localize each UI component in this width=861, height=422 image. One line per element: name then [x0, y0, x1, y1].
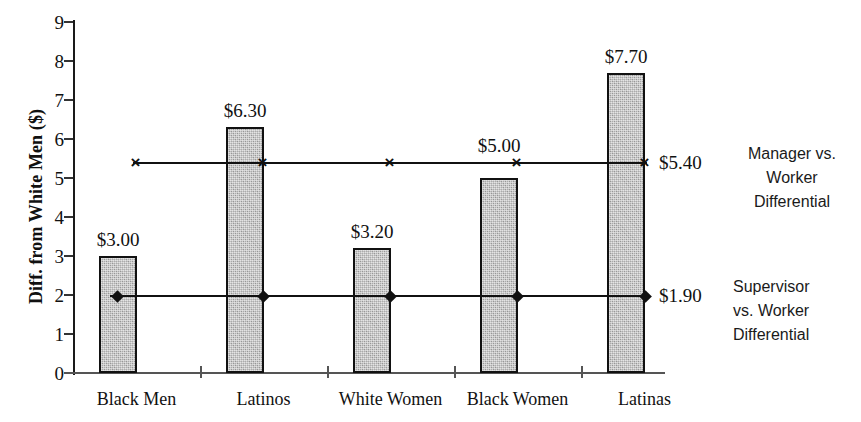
bar-chart: Diff. from White Men ($) 0 1 2 3 4 5 6 7…	[0, 0, 861, 422]
bar-white-women[interactable]	[353, 248, 391, 373]
y-tick-label-6: 6	[38, 130, 64, 149]
bar-value-label-latinas: $7.70	[586, 47, 666, 66]
marker-cross-white-women: ×	[383, 156, 396, 169]
x-category-label-latinas: Latinas	[581, 389, 708, 409]
bar-value-label-white-women: $3.20	[332, 222, 412, 241]
marker-cross-latinas: ×	[638, 156, 651, 169]
reference-caption-manager-line-3: Differential	[733, 190, 851, 214]
marker-cross-latinos: ×	[256, 156, 269, 169]
bar-value-label-black-women: $5.00	[459, 136, 539, 155]
reference-caption-supervisor-line-2: vs. Worker	[733, 299, 861, 323]
y-tick-label-9: 9	[38, 13, 64, 32]
y-tick-label-8: 8	[38, 52, 64, 71]
y-axis-line	[73, 20, 75, 375]
bar-black-men[interactable]	[99, 256, 137, 373]
marker-cross-black-women: ×	[510, 156, 523, 169]
y-tick-label-3: 3	[38, 247, 64, 266]
reference-caption-manager-line-1: Manager vs.	[733, 142, 851, 166]
y-tick-label-2: 2	[38, 286, 64, 305]
y-tick-label-4: 4	[38, 208, 64, 227]
reference-line-supervisor-vs-worker	[110, 295, 647, 297]
reference-caption-manager-line-2: Worker	[733, 166, 851, 190]
marker-cross-black-men: ×	[129, 156, 142, 169]
x-category-label-black-men: Black Men	[73, 389, 200, 409]
bar-latinas[interactable]	[607, 73, 645, 373]
x-tick-mark-4	[581, 366, 583, 378]
bar-black-women[interactable]	[480, 178, 518, 373]
reference-value-supervisor-vs-worker: $1.90	[659, 286, 702, 305]
x-tick-mark-1	[200, 366, 202, 378]
y-tick-label-7: 7	[38, 91, 64, 110]
y-tick-label-5: 5	[38, 169, 64, 188]
bar-value-label-latinos: $6.30	[205, 101, 285, 120]
y-tick-label-0: 0	[38, 364, 64, 383]
y-tick-label-1: 1	[38, 325, 64, 344]
reference-caption-supervisor-line-3: Differential	[733, 323, 861, 347]
x-category-label-black-women: Black Women	[454, 389, 581, 409]
bar-value-label-black-men: $3.00	[78, 230, 158, 249]
x-category-label-white-women: White Women	[327, 389, 454, 409]
reference-value-manager-vs-worker: $5.40	[659, 153, 702, 172]
reference-caption-supervisor-line-1: Supervisor	[733, 275, 861, 299]
x-tick-mark-3	[454, 366, 456, 378]
x-tick-mark-2	[327, 366, 329, 378]
x-category-label-latinos: Latinos	[200, 389, 327, 409]
